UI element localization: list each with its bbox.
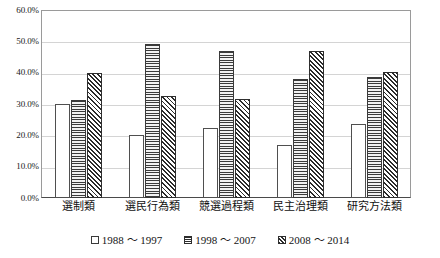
y-axis-tick-label: 10.0%	[1, 162, 39, 171]
bar-chart: 0.0%10.0%20.0%30.0%40.0%50.0%60.0% 選制類選民…	[0, 0, 440, 258]
x-axis-tick-label: 選民行為類	[115, 200, 189, 214]
y-axis-tick-label: 60.0%	[1, 6, 39, 15]
y-axis-tick-label: 30.0%	[1, 100, 39, 109]
y-axis-tick-label: 0.0%	[1, 194, 39, 203]
x-axis-tick-label: 競選過程類	[189, 200, 263, 214]
legend-item[interactable]: 1988 ～ 1997	[91, 234, 163, 246]
legend-label: 1988 ～ 1997	[102, 234, 163, 246]
x-axis-tick-label: 研究方法類	[337, 200, 411, 214]
gridline	[42, 42, 410, 43]
x-axis-tick-label: 民主治理類	[263, 200, 337, 214]
gridline	[42, 105, 410, 106]
x-axis: 選制類選民行為類競選過程類民主治理類研究方法類	[41, 200, 411, 220]
gridline	[42, 168, 410, 169]
y-axis-tick-label: 20.0%	[1, 131, 39, 140]
legend-swatch-icon	[278, 236, 286, 244]
legend: 1988 ～ 19971998 ～ 20072008 ～ 2014	[0, 231, 440, 249]
legend-swatch-icon	[184, 236, 192, 244]
y-axis-tick-label: 40.0%	[1, 68, 39, 77]
y-axis: 0.0%10.0%20.0%30.0%40.0%50.0%60.0%	[0, 10, 39, 198]
legend-label: 1998 ～ 2007	[195, 234, 256, 246]
legend-item[interactable]: 1998 ～ 2007	[184, 234, 256, 246]
legend-swatch-icon	[91, 236, 99, 244]
legend-label: 2008 ～ 2014	[289, 234, 350, 246]
gridline	[42, 136, 410, 137]
legend-item[interactable]: 2008 ～ 2014	[278, 234, 350, 246]
y-axis-tick-label: 50.0%	[1, 37, 39, 46]
gridline	[42, 74, 410, 75]
x-axis-tick-label: 選制類	[41, 200, 115, 214]
plot-area	[41, 10, 411, 198]
